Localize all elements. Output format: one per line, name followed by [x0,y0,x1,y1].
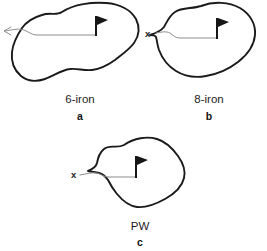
green-outline-b [150,3,255,77]
golf-flag-icon-a [96,16,108,36]
panel-a-letter-label: a [77,110,83,122]
golf-flag-icon-c [136,156,148,178]
golf-green-diagram: 6-iron a x 8-iron b [0,0,267,251]
panel-b-club-label: 8-iron [194,93,223,105]
panel-b: x 8-iron b [145,3,255,122]
trajectory-line-c [80,173,136,177]
panel-a: 6-iron a [4,3,138,122]
figure-root: 6-iron a x 8-iron b [0,0,267,251]
start-x-label-b: x [145,28,151,39]
panel-b-letter-label: b [206,110,212,122]
panel-c: x PW c [71,138,185,248]
start-x-label-c: x [71,169,77,180]
panel-a-club-label: 6-iron [65,93,94,105]
trajectory-line-b [156,32,217,38]
panel-c-letter-label: c [137,236,143,248]
green-outline-a [12,3,139,81]
panel-c-club-label: PW [131,220,150,232]
golf-flag-icon-b [217,18,229,39]
